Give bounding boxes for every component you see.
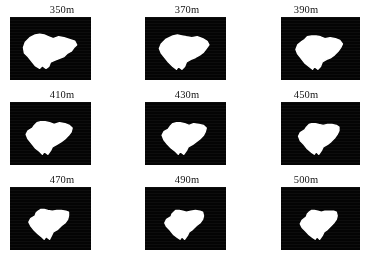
panel-350m-image bbox=[10, 17, 91, 80]
panel-500m-landmass-shape bbox=[281, 187, 360, 250]
panel-350m-landmass-shape bbox=[10, 17, 91, 80]
panel-370m-landmass-shape bbox=[145, 17, 226, 80]
panel-500m-label: 500m bbox=[246, 174, 366, 187]
panel-390m: 390m bbox=[246, 4, 366, 80]
panel-410m-label: 410m bbox=[2, 89, 122, 102]
panel-370m-image bbox=[145, 17, 226, 80]
panel-410m-image bbox=[10, 102, 91, 165]
panel-470m: 470m bbox=[2, 174, 122, 250]
panel-490m: 490m bbox=[127, 174, 247, 250]
panel-450m: 450m bbox=[246, 89, 366, 165]
panel-500m: 500m bbox=[246, 174, 366, 250]
panel-500m-image bbox=[281, 187, 360, 250]
panel-470m-image bbox=[10, 187, 91, 250]
panel-490m-label: 490m bbox=[127, 174, 247, 187]
panel-430m-landmass-shape bbox=[145, 102, 226, 165]
panel-350m: 350m bbox=[2, 4, 122, 80]
panel-370m-label: 370m bbox=[127, 4, 247, 17]
panel-390m-image bbox=[281, 17, 360, 80]
panel-410m: 410m bbox=[2, 89, 122, 165]
panel-430m-label: 430m bbox=[127, 89, 247, 102]
panel-390m-label: 390m bbox=[246, 4, 366, 17]
panel-350m-label: 350m bbox=[2, 4, 122, 17]
silhouette-panel-grid: 350m370m390m410m430m450m470m490m500m bbox=[0, 0, 368, 261]
panel-450m-label: 450m bbox=[246, 89, 366, 102]
panel-450m-image bbox=[281, 102, 360, 165]
panel-470m-label: 470m bbox=[2, 174, 122, 187]
panel-490m-image bbox=[145, 187, 226, 250]
panel-370m: 370m bbox=[127, 4, 247, 80]
panel-470m-landmass-shape bbox=[10, 187, 91, 250]
panel-430m: 430m bbox=[127, 89, 247, 165]
panel-450m-landmass-shape bbox=[281, 102, 360, 165]
panel-490m-landmass-shape bbox=[145, 187, 226, 250]
panel-390m-landmass-shape bbox=[281, 17, 360, 80]
panel-410m-landmass-shape bbox=[10, 102, 91, 165]
panel-430m-image bbox=[145, 102, 226, 165]
